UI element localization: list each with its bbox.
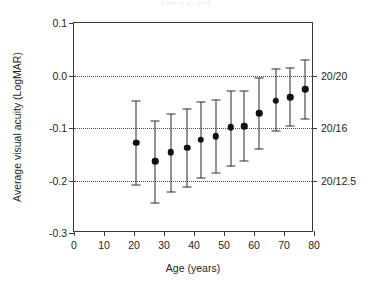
error-bar-cap	[151, 120, 160, 121]
error-bar-cap	[271, 130, 280, 131]
secondary-y-tick-label: 20/12.5	[321, 175, 356, 187]
data-point	[168, 149, 175, 156]
data-series	[74, 23, 312, 231]
x-tick-label: 20	[128, 239, 140, 251]
y-tick-label: -0.3	[49, 227, 67, 239]
x-tick	[104, 231, 105, 236]
data-point	[241, 123, 248, 130]
y-tick-label: 0.0	[52, 70, 67, 82]
data-point	[287, 94, 294, 101]
secondary-y-tick-label: 20/20	[321, 70, 347, 82]
data-point	[133, 139, 140, 146]
secondary-y-tick-label: 20/16	[321, 122, 347, 134]
error-bar-cap	[301, 118, 310, 119]
secondary-y-tick	[312, 76, 317, 77]
error-bar-cap	[132, 184, 141, 185]
data-point	[152, 158, 159, 165]
error-bar-cap	[240, 91, 249, 92]
x-axis-title: Age (years)	[73, 262, 313, 274]
x-tick-label: 0	[71, 239, 77, 251]
x-tick	[164, 231, 165, 236]
x-tick-label: 30	[158, 239, 170, 251]
x-tick-label: 10	[98, 239, 110, 251]
error-bar-cap	[211, 172, 220, 173]
x-tick-label: 40	[188, 239, 200, 251]
y-tick-label: -0.2	[49, 175, 67, 187]
x-tick	[134, 231, 135, 236]
error-bar-cap	[240, 161, 249, 162]
error-bar-cap	[151, 203, 160, 204]
error-bar-cap	[196, 178, 205, 179]
x-tick-label: 70	[278, 239, 290, 251]
x-tick	[284, 231, 285, 236]
y-tick-label: 0.1	[52, 17, 67, 29]
data-point	[273, 97, 280, 104]
chart-title: Elliott et al., 1995	[0, 0, 372, 6]
x-tick	[74, 231, 75, 236]
x-tick-label: 50	[218, 239, 230, 251]
error-bar-cap	[211, 100, 220, 101]
error-bar-cap	[183, 109, 192, 110]
secondary-y-tick	[312, 181, 317, 182]
x-tick-label: 60	[248, 239, 260, 251]
data-point	[198, 136, 205, 143]
error-bar-cap	[271, 69, 280, 70]
error-bar-cap	[166, 192, 175, 193]
data-point	[256, 110, 263, 117]
error-bar-cap	[196, 101, 205, 102]
error-bar-cap	[255, 149, 264, 150]
secondary-y-tick	[312, 128, 317, 129]
data-point	[228, 124, 235, 131]
error-bar-cap	[301, 59, 310, 60]
error-bar-cap	[286, 67, 295, 68]
plot-area: 0.10.0-0.1-0.2-0.3 20/2020/1620/12.5 010…	[73, 22, 313, 232]
x-tick	[224, 231, 225, 236]
y-tick-label: -0.1	[49, 122, 67, 134]
data-point	[213, 133, 220, 140]
error-bar-cap	[132, 100, 141, 101]
figure: Elliott et al., 1995 Average visual acui…	[0, 0, 372, 282]
error-bar-cap	[226, 165, 235, 166]
x-tick	[314, 231, 315, 236]
error-bar-cap	[286, 125, 295, 126]
error-bar-cap	[166, 113, 175, 114]
error-bar-cap	[226, 90, 235, 91]
error-bar-cap	[255, 78, 264, 79]
error-bar-cap	[183, 187, 192, 188]
x-tick	[194, 231, 195, 236]
y-axis-title: Average visual acuity (LogMAR)	[10, 22, 24, 232]
x-tick-label: 80	[308, 239, 320, 251]
data-point	[184, 145, 191, 152]
x-tick	[254, 231, 255, 236]
y-axis-title-text: Average visual acuity (LogMAR)	[11, 52, 23, 202]
data-point	[302, 86, 309, 93]
